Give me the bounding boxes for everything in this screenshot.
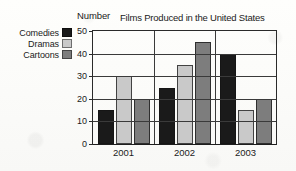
bar-dramas-2002 (177, 65, 193, 144)
x-tick-label-2003: 2003 (235, 148, 256, 158)
legend-item-dramas: Dramas (4, 38, 72, 49)
legend-label-cartoons: Cartoons (23, 50, 59, 60)
y-axis-label: Number (77, 10, 110, 21)
legend-label-comedies: Comedies (19, 28, 59, 38)
bars-layer (93, 31, 276, 144)
bar-cartoons-2001 (134, 99, 150, 144)
x-tick-label-2002: 2002 (174, 148, 195, 158)
y-tick-mark-0 (89, 144, 93, 145)
x-tick-label-2001: 2001 (113, 148, 134, 158)
bar-dramas-2003 (238, 110, 254, 144)
y-tick-label-50: 50 (77, 27, 87, 36)
chart-figure: Comedies Dramas Cartoons Number Films Pr… (0, 0, 296, 171)
y-tick-mark-10 (89, 121, 93, 122)
group-divider-2 (215, 31, 216, 144)
plot-area: 01020304050 200120022003 (92, 30, 277, 145)
bar-comedies-2003 (220, 54, 236, 144)
legend-label-dramas: Dramas (28, 39, 59, 49)
bar-cartoons-2003 (256, 99, 272, 144)
chart-title: Films Produced in the United States (120, 12, 265, 23)
chart-legend: Comedies Dramas Cartoons (4, 27, 72, 60)
legend-swatch-dramas (62, 39, 72, 48)
y-tick-label-30: 30 (77, 72, 87, 81)
y-tick-mark-20 (89, 99, 93, 100)
bar-dramas-2001 (116, 76, 132, 144)
y-tick-label-10: 10 (77, 117, 87, 126)
legend-item-comedies: Comedies (4, 27, 72, 38)
bar-comedies-2002 (159, 88, 175, 145)
bar-cartoons-2002 (195, 42, 211, 144)
y-tick-label-0: 0 (82, 140, 87, 149)
y-tick-label-20: 20 (77, 94, 87, 103)
y-tick-mark-40 (89, 54, 93, 55)
y-tick-mark-30 (89, 76, 93, 77)
legend-swatch-comedies (62, 28, 72, 37)
bar-comedies-2001 (98, 110, 114, 144)
legend-swatch-cartoons (62, 50, 72, 59)
y-tick-label-40: 40 (77, 49, 87, 58)
legend-item-cartoons: Cartoons (4, 49, 72, 60)
group-divider-1 (154, 31, 155, 144)
y-tick-mark-50 (89, 31, 93, 32)
